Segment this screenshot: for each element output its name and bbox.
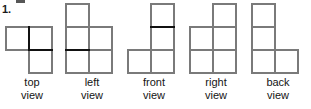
grid-cell xyxy=(252,50,275,73)
shape-front-view xyxy=(122,0,186,76)
label-front-view-line2: view xyxy=(122,89,186,102)
figure-root: 1. top view left view front view right v… xyxy=(0,0,311,109)
label-right-view-line1: right xyxy=(184,76,248,89)
grid-cell xyxy=(66,4,89,27)
label-left-view: left view xyxy=(60,76,124,101)
grid-cell xyxy=(151,27,174,50)
grid-cell xyxy=(29,50,52,73)
label-top-view-line2: view xyxy=(0,89,64,102)
label-back-view-line1: back xyxy=(246,76,310,89)
grid-cell xyxy=(29,27,52,50)
view-group-right: right view xyxy=(184,0,248,109)
label-top-view: top view xyxy=(0,76,64,101)
view-group-front: front view xyxy=(122,0,186,109)
grid-cell xyxy=(252,4,275,27)
label-back-view-line2: view xyxy=(246,89,310,102)
grid-cell xyxy=(213,27,236,50)
grid-cell xyxy=(89,50,112,73)
grid-cell xyxy=(190,50,213,73)
grid-cell xyxy=(66,50,89,73)
grid-cell xyxy=(275,50,298,73)
label-right-view: right view xyxy=(184,76,248,101)
view-group-left: left view xyxy=(60,0,124,109)
label-front-view: front view xyxy=(122,76,186,101)
label-front-view-line1: front xyxy=(122,76,186,89)
shape-back-view xyxy=(246,0,310,76)
grid-cell xyxy=(252,27,275,50)
grid-cell xyxy=(128,50,151,73)
label-left-view-line2: view xyxy=(60,89,124,102)
grid-cell xyxy=(190,27,213,50)
grid-cell xyxy=(213,4,236,27)
view-group-back: back view xyxy=(246,0,310,109)
grid-cell xyxy=(213,50,236,73)
label-back-view: back view xyxy=(246,76,310,101)
grid-cell xyxy=(6,27,29,50)
label-top-view-line1: top xyxy=(0,76,64,89)
grid-cell xyxy=(89,27,112,50)
label-left-view-line1: left xyxy=(60,76,124,89)
grid-cell xyxy=(151,50,174,73)
shape-left-view xyxy=(60,0,124,76)
shape-right-view xyxy=(184,0,248,76)
shape-top-view xyxy=(0,0,64,76)
view-group-top: top view xyxy=(0,0,64,109)
grid-cell xyxy=(151,4,174,27)
label-right-view-line2: view xyxy=(184,89,248,102)
grid-cell xyxy=(66,27,89,50)
